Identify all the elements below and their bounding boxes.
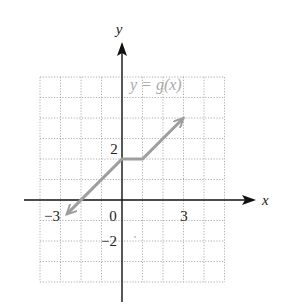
graph-canvas: y x y = g(x) −3 0 3 2 −2: [0, 0, 290, 307]
x-axis-label: x: [261, 192, 269, 208]
tick-label-neg3: −3: [44, 208, 60, 224]
tick-label-neg2: −2: [101, 233, 117, 249]
tick-label-3: 3: [180, 208, 188, 224]
speck: [134, 236, 136, 238]
y-axis-label: y: [114, 21, 123, 37]
grid: [40, 77, 225, 282]
tick-label-0: 0: [109, 208, 117, 224]
function-label: y = g(x): [128, 76, 182, 94]
tick-label-2: 2: [110, 141, 118, 157]
